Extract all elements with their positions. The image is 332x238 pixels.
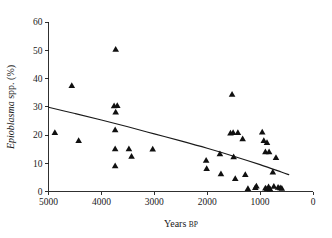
chart-figure: 0102030405060 500040003000200010000 Epio…: [0, 0, 332, 238]
y-tick-label: 20: [33, 130, 43, 140]
data-point-marker: [128, 153, 135, 159]
data-point-marker: [75, 137, 82, 143]
x-tick-label: 4000: [92, 197, 111, 207]
x-tick-label: 5000: [39, 197, 58, 207]
data-point-marker: [229, 91, 236, 97]
y-tick-label: 50: [33, 46, 43, 56]
svg-text:Years BP: Years BP: [164, 218, 198, 229]
data-point-marker: [239, 136, 246, 142]
data-point-marker: [259, 129, 266, 135]
data-point-marker: [52, 129, 59, 135]
data-point-marker: [232, 175, 239, 181]
x-axis-title-suffix: BP: [189, 220, 198, 229]
y-axis-ticks: [45, 22, 49, 192]
data-point-marker: [149, 146, 156, 152]
x-axis-tick-labels: 500040003000200010000: [39, 197, 316, 207]
data-point-marker: [112, 145, 119, 151]
x-axis-ticks: [49, 192, 314, 196]
data-point-marker: [112, 109, 119, 115]
y-tick-label: 40: [33, 74, 43, 84]
data-point-marker: [126, 145, 133, 151]
y-axis-title-rest: spp. (%): [5, 65, 17, 101]
x-tick-label: 1000: [251, 197, 270, 207]
data-point-marker: [203, 157, 210, 163]
svg-text:Epioblasma spp. (%): Epioblasma spp. (%): [5, 65, 17, 150]
x-tick-label: 3000: [145, 197, 164, 207]
plot-axes: [49, 22, 314, 192]
y-axis-title-genus: Epioblasma: [5, 101, 16, 150]
data-point-marker: [112, 127, 119, 133]
y-axis-title: Epioblasma spp. (%): [5, 65, 17, 150]
y-tick-label: 0: [38, 187, 43, 197]
data-point-marker: [68, 82, 75, 88]
x-axis-title: Years BP: [164, 218, 198, 229]
data-point-marker: [245, 185, 252, 191]
x-tick-label: 0: [311, 197, 316, 207]
data-point-marker: [112, 46, 119, 52]
scatter-plot: 0102030405060 500040003000200010000 Epio…: [0, 0, 332, 238]
y-tick-label: 30: [33, 102, 43, 112]
data-point-marker: [235, 129, 242, 135]
data-point-marker: [230, 153, 237, 159]
y-tick-label: 60: [33, 17, 43, 27]
x-axis-title-main: Years: [164, 218, 186, 229]
data-point-marker: [253, 183, 260, 189]
x-tick-label: 2000: [198, 197, 217, 207]
data-point-marker: [242, 171, 249, 177]
trend-line-group: [49, 107, 290, 175]
y-tick-label: 10: [33, 159, 43, 169]
data-point-marker: [218, 171, 225, 177]
regression-trend-line: [49, 107, 290, 175]
data-points-group: [52, 46, 286, 192]
data-point-marker: [273, 154, 280, 160]
y-axis-tick-labels: 0102030405060: [33, 17, 43, 197]
data-point-marker: [112, 162, 119, 168]
data-point-marker: [203, 165, 210, 171]
